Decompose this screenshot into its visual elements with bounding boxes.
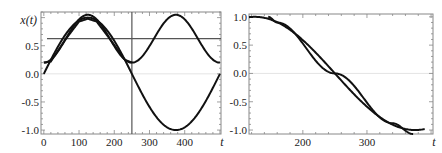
x-tick-label: 0	[41, 136, 47, 148]
y-tick-label: -1.0	[22, 124, 40, 136]
x-tick-label: 400	[176, 136, 193, 148]
y-tick-label: -0.5	[230, 96, 248, 108]
x-tick-label: 300	[141, 136, 158, 148]
x-tick-label: 300	[359, 136, 376, 148]
y-tick-label: -1.0	[230, 124, 248, 136]
y-tick-label: 1.0	[233, 11, 247, 23]
series-linear-approx	[268, 17, 413, 134]
x-tick-label: 100	[71, 136, 88, 148]
y-tick-label: 0.5	[233, 39, 247, 51]
y-tick-label: 0.5	[25, 40, 39, 52]
x-axis-title: t	[432, 135, 436, 149]
x-axis-title: t	[220, 135, 224, 149]
y-tick-label: 0.0	[233, 67, 247, 79]
x-tick-label: 200	[106, 136, 123, 148]
series-approximation	[44, 19, 132, 63]
figure: 0100200300400-1.0-0.50.00.5tx(t)200300-1…	[0, 0, 442, 153]
x-tick-label: 200	[295, 136, 312, 148]
panel-2: 200300-1.0-0.50.00.51.0t	[230, 11, 437, 149]
panel-1: 0100200300400-1.0-0.50.00.5tx(t)	[19, 12, 224, 149]
y-tick-label: -0.5	[22, 96, 40, 108]
y-axis-title: x(t)	[19, 13, 37, 27]
y-tick-label: 0.0	[25, 68, 39, 80]
